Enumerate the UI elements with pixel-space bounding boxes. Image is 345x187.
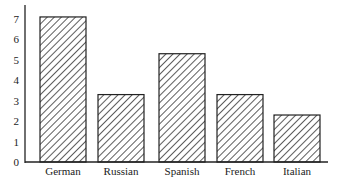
y-tick-label: 4 (14, 74, 20, 86)
x-tick-label: Italian (283, 165, 312, 177)
x-axis: GermanRussianSpanishFrenchItalian (25, 162, 328, 177)
bar-german (40, 17, 86, 162)
bar-spanish (159, 54, 205, 162)
y-tick-label: 6 (14, 33, 20, 45)
y-axis: 01234567 (14, 5, 26, 168)
x-tick-label: German (45, 165, 81, 177)
x-tick-label: Russian (104, 165, 139, 177)
y-tick-label: 0 (14, 156, 20, 168)
y-tick-label: 1 (14, 136, 20, 148)
x-tick-label: French (225, 165, 256, 177)
bar-russian (98, 95, 144, 162)
bar-french (217, 95, 263, 162)
x-tick-label: Spanish (165, 165, 200, 177)
bar-chart: 01234567 GermanRussianSpanishFrenchItali… (0, 0, 345, 187)
bars (40, 17, 320, 162)
bar-italian (274, 115, 320, 162)
y-tick-label: 7 (14, 13, 20, 25)
y-tick-label: 3 (14, 95, 20, 107)
y-tick-label: 5 (14, 54, 20, 66)
y-tick-label: 2 (14, 115, 20, 127)
